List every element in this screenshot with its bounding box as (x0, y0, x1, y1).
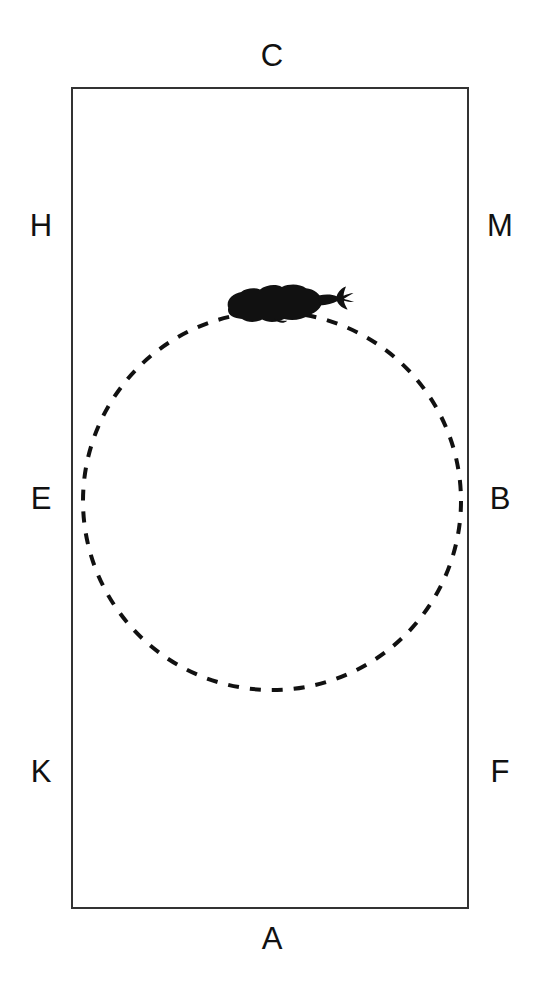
label-m: M (487, 208, 513, 243)
fish-silhouette (226, 280, 355, 327)
label-k: K (31, 754, 52, 789)
arena-diagram: C H M E B K F A (0, 0, 540, 987)
dashed-circle-path (83, 312, 461, 690)
label-f: F (491, 754, 510, 789)
label-e: E (31, 481, 52, 516)
label-a: A (262, 921, 283, 956)
label-c: C (261, 38, 283, 73)
figure-canvas: C H M E B K F A (0, 0, 540, 987)
arena-rectangle (72, 88, 468, 908)
label-h: H (30, 208, 52, 243)
label-b: B (490, 481, 511, 516)
